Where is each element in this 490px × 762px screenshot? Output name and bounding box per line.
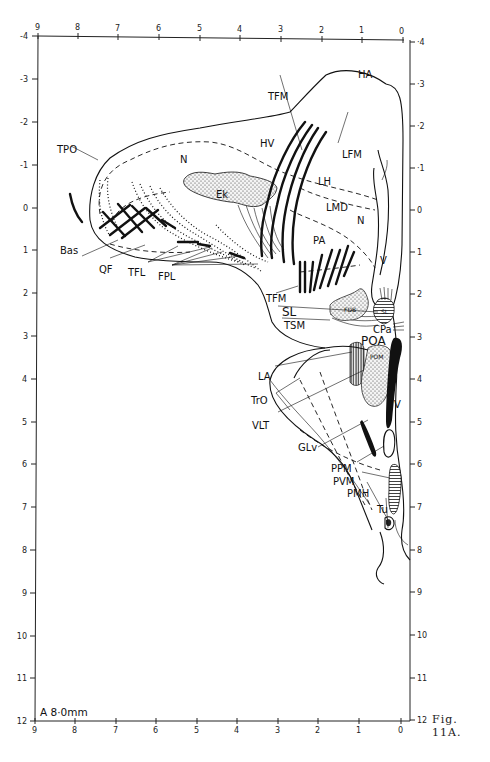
- svg-text:1: 1: [23, 246, 28, 255]
- plate-label: A 8·0mm: [40, 706, 88, 718]
- svg-text:3: 3: [23, 332, 28, 341]
- label-pom: POM: [370, 353, 384, 360]
- left-tick: 3: [23, 332, 37, 341]
- region-labels: HA TFM HV TPO LFM N LH Ek LMD N PA Bas V…: [56, 69, 401, 515]
- label-tu: Tu: [376, 504, 388, 515]
- label-tfl: TFL: [127, 267, 146, 278]
- left-tick: 7: [22, 503, 36, 512]
- pvm-striped: [389, 464, 401, 514]
- label-ek: Ek: [216, 189, 228, 200]
- right-tick: 8: [410, 546, 422, 555]
- svg-text:6: 6: [156, 24, 161, 33]
- top-tick-0: 0: [399, 27, 404, 43]
- right-tick: ·3: [410, 80, 425, 89]
- right-tick: ·2: [410, 122, 425, 131]
- right-tick: 5: [410, 418, 422, 427]
- left-tick: 1: [23, 246, 37, 255]
- right-tick: 3: [410, 333, 422, 342]
- top-tick-5: 5: [197, 24, 202, 41]
- top-tick-3: 3: [278, 25, 283, 42]
- tu-dark: [386, 519, 391, 526]
- top-tick-9: 9: [35, 23, 40, 39]
- label-sl: SL: [282, 305, 297, 319]
- right-tick: 0: [410, 206, 422, 215]
- label-lmd: LMD: [326, 202, 348, 213]
- label-poa: POA: [361, 334, 386, 348]
- left-tick: -3: [20, 75, 38, 84]
- svg-text:9: 9: [32, 726, 37, 735]
- svg-text:9: 9: [35, 23, 40, 32]
- svg-text:3: 3: [278, 25, 283, 34]
- left-tick: -1: [20, 161, 37, 170]
- right-tick: 12: [410, 716, 427, 725]
- label-tfm-bottom: TFM: [265, 293, 287, 304]
- svg-text:-4: -4: [20, 32, 28, 41]
- right-tick: ·4: [410, 38, 425, 47]
- right-tick: ·1: [410, 164, 425, 173]
- label-tfm-top: TFM: [267, 91, 289, 102]
- label-n-right: N: [357, 215, 364, 226]
- svg-text:1: 1: [359, 26, 364, 35]
- right-tick: 9: [410, 588, 422, 597]
- left-tick: -2: [20, 118, 38, 127]
- svg-text:4: 4: [234, 726, 239, 735]
- label-v-lower: V: [394, 399, 401, 410]
- svg-text:9: 9: [417, 588, 422, 597]
- left-tick: 10: [17, 632, 35, 641]
- svg-text:4: 4: [22, 375, 27, 384]
- right-tick: 7: [410, 503, 422, 512]
- right-tick: 10: [410, 631, 427, 640]
- left-tick: 5: [22, 418, 36, 427]
- svg-text:2: 2: [319, 26, 324, 35]
- svg-text:5: 5: [22, 418, 27, 427]
- left-tick: 12: [17, 717, 35, 726]
- svg-text:0: 0: [399, 27, 404, 36]
- svg-text:7: 7: [417, 503, 422, 512]
- label-v-upper: V: [380, 255, 387, 266]
- label-pmh: PMH: [347, 488, 369, 499]
- svg-text:12: 12: [17, 717, 27, 726]
- label-ppm: PPM: [331, 463, 352, 474]
- left-tick: 2: [23, 289, 37, 298]
- svg-text:5: 5: [417, 418, 422, 427]
- label-fdb: FDB: [344, 306, 356, 313]
- svg-text:9: 9: [22, 589, 27, 598]
- svg-text:2: 2: [417, 290, 422, 299]
- label-bas: Bas: [60, 245, 78, 256]
- vlt-region: [360, 420, 376, 457]
- svg-text:10: 10: [417, 631, 427, 640]
- right-y-axis: ·4 ·3 ·2 ·1 0 1 2 3 4 5 6 7 8 9 10 11 12: [410, 38, 427, 725]
- label-qf: QF: [99, 264, 113, 275]
- left-tick: 11: [17, 674, 35, 683]
- right-tick: 1: [410, 248, 422, 257]
- svg-text:10: 10: [17, 632, 27, 641]
- label-tpo: TPO: [56, 144, 77, 155]
- label-n-left: N: [180, 154, 187, 165]
- svg-text:0: 0: [398, 726, 403, 735]
- svg-text:·1: ·1: [417, 164, 425, 173]
- label-hv: HV: [260, 138, 275, 149]
- svg-text:7: 7: [115, 24, 120, 33]
- figure-caption: Fig. 11A.: [432, 713, 490, 739]
- ek-region: [184, 172, 277, 207]
- label-sl-inner: SL: [381, 308, 389, 315]
- svg-text:·3: ·3: [417, 80, 425, 89]
- label-ha: HA: [358, 69, 373, 80]
- svg-text:7: 7: [22, 503, 27, 512]
- svg-text:5: 5: [197, 24, 202, 33]
- label-lfm: LFM: [342, 149, 362, 160]
- svg-text:2: 2: [315, 726, 320, 735]
- svg-text:1: 1: [356, 726, 361, 735]
- right-tick: 11: [410, 674, 427, 683]
- svg-text:8: 8: [75, 23, 80, 32]
- top-x-axis: 9 8 7 6 5 4 3 2 1 0: [35, 23, 404, 43]
- svg-text:8: 8: [417, 546, 422, 555]
- brain-atlas-figure: 9 8 7 6 5 4 3 2 1 0 9 8 7 6 5 4 3 2 1 0 …: [0, 0, 490, 762]
- top-tick-7: 7: [115, 24, 120, 40]
- left-tick: 9: [22, 589, 36, 598]
- label-vlt: VLT: [252, 420, 270, 431]
- svg-text:-2: -2: [20, 118, 28, 127]
- label-tsm: TSM: [283, 320, 305, 331]
- svg-text:3: 3: [417, 333, 422, 342]
- svg-text:-1: -1: [20, 161, 28, 170]
